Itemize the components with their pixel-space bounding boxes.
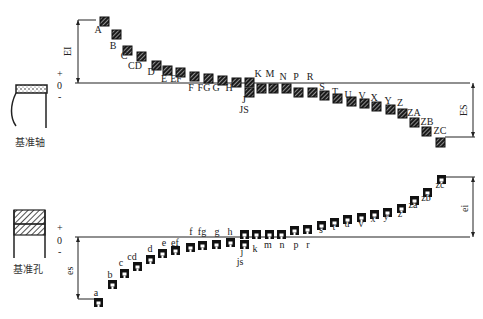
reference-hole-icon	[14, 210, 45, 258]
zone-label: s	[319, 224, 323, 235]
zone-box	[112, 30, 121, 39]
zone-label: k	[253, 243, 258, 254]
zone-box	[398, 109, 407, 118]
shaft-system: 基准轴 + 0 - EI ES ABCCDDEEFFFGGHJJSKMNPRST…	[12, 17, 476, 148]
ei-label: EI	[62, 47, 73, 56]
tolerance-zone-a: a	[94, 287, 103, 307]
tolerance-zone-zb: zb	[421, 188, 432, 203]
zone-label: E	[161, 73, 167, 84]
zone-label: Y	[384, 95, 391, 106]
tolerance-zone-u: u	[343, 215, 352, 229]
zone-label: G	[212, 82, 219, 93]
tolerance-zone-cd: cd	[127, 251, 142, 271]
es-label: es	[64, 267, 75, 275]
zone-box	[269, 84, 278, 93]
tolerance-zone-D: D	[147, 61, 161, 77]
zone-box	[245, 78, 254, 87]
zone-box	[257, 84, 266, 93]
zone-label: r	[306, 239, 310, 250]
zone-box	[410, 118, 419, 127]
zone-box	[190, 72, 199, 81]
tolerance-zone-P: P	[293, 71, 303, 97]
tolerance-zone-C: C	[121, 46, 132, 61]
tolerance-zone-m: m	[264, 230, 274, 250]
zone-box	[294, 88, 303, 97]
tolerance-zone-X: X	[370, 92, 381, 111]
zone-label: F	[188, 82, 194, 93]
tolerance-zone-d: d	[146, 243, 155, 264]
tolerance-zone-n: n	[277, 230, 286, 250]
zone-label: cd	[127, 251, 136, 262]
zone-label: M	[266, 68, 275, 79]
zone-label: e	[162, 237, 167, 248]
zone-label: x	[371, 213, 376, 224]
zone-label: ZB	[421, 116, 434, 127]
zone-label: FG	[198, 82, 211, 93]
zone-label: zb	[421, 192, 430, 203]
tolerance-zone-fg: fg	[198, 226, 207, 250]
tolerance-zone-ZC: ZC	[434, 125, 447, 147]
tolerance-zone-s: s	[317, 221, 326, 235]
zone-label: ef	[171, 237, 179, 248]
tolerance-zone-zc: zc	[436, 175, 446, 190]
zone-label: U	[344, 89, 352, 100]
zone-label: p	[294, 239, 299, 250]
zone-label: X	[370, 92, 378, 103]
tolerance-zone-e: e	[158, 237, 167, 258]
zone-label: H	[225, 82, 232, 93]
es-label: ES	[458, 104, 469, 116]
tolerance-zone-t: t	[330, 218, 339, 232]
zone-label: K	[254, 68, 262, 79]
zone-label: c	[119, 257, 124, 268]
zone-label: g	[215, 226, 220, 237]
zone-label: A	[94, 24, 102, 35]
tolerance-zone-ZB: ZB	[421, 116, 434, 136]
zone-label: P	[293, 71, 299, 82]
tolerance-zone-R: R	[307, 71, 317, 97]
tolerance-zone-V: V	[358, 90, 369, 108]
tolerance-zone-x: x	[370, 210, 379, 224]
zone-label: fg	[198, 226, 206, 237]
tolerance-zone-z: z	[397, 204, 406, 219]
tolerance-zone-ef: ef	[171, 237, 180, 255]
zone-label: f	[189, 226, 193, 237]
tolerance-zone-ZA: ZA	[407, 107, 421, 127]
zone-label: u	[345, 218, 350, 229]
tolerance-zone-K: K	[254, 68, 266, 93]
hole-tolerance-zones: abccddeefffgghjjskmnprstuvxyzzazbzc	[94, 175, 446, 307]
zone-label: m	[264, 239, 272, 250]
tolerance-zone-f: f	[186, 226, 195, 252]
reference-shaft-label: 基准轴	[15, 136, 45, 148]
zone-label: b	[108, 269, 113, 280]
ei-label: ei	[459, 205, 470, 212]
hole-system: 基准孔 + 0 - es ei abccddeefffgghjjskmnprst…	[13, 175, 475, 307]
shaft-tolerance-zones: ABCCDDEEFFFGGHJJSKMNPRSTUVXYZZAZBZC	[94, 17, 446, 147]
zone-box	[436, 138, 445, 147]
minus-sign: -	[58, 91, 61, 102]
zone-label: y	[384, 211, 389, 222]
zone-box	[320, 91, 329, 100]
tolerance-zone-M: M	[266, 68, 278, 93]
zone-label: z	[398, 208, 403, 219]
zone-label: za	[409, 199, 418, 210]
tolerance-zone-B: B	[110, 30, 121, 51]
zone-label: h	[228, 226, 233, 237]
zone-box	[282, 84, 291, 93]
zone-box	[372, 102, 381, 111]
zone-box	[245, 88, 254, 97]
fundamental-deviation-diagram: 基准轴 + 0 - EI ES ABCCDDEEFFFGGHJJSKMNPRST…	[0, 0, 483, 319]
zone-label: zc	[436, 179, 445, 190]
zone-label: CD	[128, 60, 142, 71]
zone-label: D	[147, 66, 154, 77]
plus-sign: +	[57, 68, 63, 79]
zone-box	[232, 78, 241, 87]
zone-label: JS	[239, 104, 248, 115]
tolerance-zone-A: A	[94, 17, 109, 35]
zone-label: ZC	[434, 125, 447, 136]
tolerance-zone-za: za	[409, 196, 419, 210]
tolerance-zone-T: T	[332, 86, 342, 103]
zone-label: a	[94, 287, 99, 298]
tolerance-zone-k: k	[252, 230, 261, 254]
zone-box	[308, 88, 317, 97]
zone-label: B	[110, 40, 117, 51]
